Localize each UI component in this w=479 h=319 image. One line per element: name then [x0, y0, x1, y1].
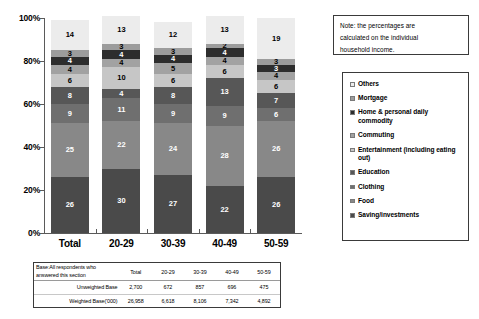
bar-segment[interactable]: 6 [257, 80, 295, 93]
bar-segment[interactable]: 5 [154, 63, 192, 74]
legend-item[interactable]: Mortgage [350, 94, 463, 103]
bar-stack: 262598644314 [51, 18, 89, 233]
bar-segment[interactable]: 22 [102, 121, 140, 168]
bar-segment-value: 6 [171, 77, 175, 85]
bar-segment[interactable]: 27 [154, 175, 192, 233]
legend-item-label: Others [358, 80, 379, 89]
bar-segment[interactable]: 19 [257, 18, 295, 59]
bar-segment[interactable]: 4 [102, 89, 140, 98]
y-axis-tick [40, 233, 45, 234]
legend-item[interactable]: Commuting [350, 131, 463, 140]
bar-segment[interactable]: 14 [51, 20, 89, 50]
legend-item[interactable]: Home & personal daily commodity [350, 108, 463, 125]
bar-segment-value: 26 [272, 145, 280, 153]
bar-segment[interactable]: 10 [102, 67, 140, 89]
bar-segment-value: 4 [119, 90, 123, 98]
bar-segment[interactable]: 4 [154, 55, 192, 64]
bar-segment-value: 3 [274, 65, 278, 71]
legend-swatch-icon [350, 199, 355, 204]
bar-segment[interactable]: 4 [102, 59, 140, 68]
bar-group[interactable]: 272498654312 [154, 18, 192, 233]
bar-segment[interactable]: 13 [206, 16, 244, 44]
base-table-col-50-59: 50-59 [248, 263, 280, 281]
legend-item-label: Food [358, 197, 374, 206]
cell-unweighted-total: 2,700 [119, 281, 151, 295]
chart-legend: OthersMortgageHome & personal daily comm… [342, 72, 469, 241]
bar-group[interactable]: 262667643319 [257, 18, 295, 233]
bar-segment[interactable]: 26 [257, 121, 295, 177]
cell-weighted-30-39: 8,106 [184, 294, 216, 307]
bar-segment[interactable]: 30 [102, 169, 140, 234]
bar-segment[interactable]: 26 [51, 177, 89, 233]
y-axis-tick-label: 20% [24, 185, 40, 195]
bar-segment[interactable]: 9 [206, 106, 244, 125]
base-table-grid: Base:All respondents who answered this s… [34, 263, 280, 307]
bar-segment-value: 6 [223, 68, 227, 76]
bar-group[interactable]: 262598644314 [51, 18, 89, 233]
bar-segment[interactable]: 6 [51, 74, 89, 87]
bar-group[interactable]: 2228913644213 [206, 18, 244, 233]
bar-segment[interactable]: 6 [257, 108, 295, 121]
bar-segment-value: 24 [169, 145, 177, 153]
bar-segment-value: 9 [171, 110, 175, 118]
bar-segment[interactable]: 24 [154, 123, 192, 175]
legend-item[interactable]: Food [350, 197, 463, 206]
bar-stack: 2228913644213 [206, 18, 244, 233]
bar-segment[interactable]: 13 [206, 78, 244, 106]
y-axis-tick-label: 40% [24, 142, 40, 152]
bar-segment-value: 14 [66, 31, 74, 39]
bar-segment[interactable]: 28 [206, 126, 244, 186]
bar-segment[interactable]: 3 [257, 65, 295, 71]
bar-segment[interactable]: 2 [206, 44, 244, 48]
bar-segment-value: 12 [169, 31, 177, 39]
row-label-unweighted-base: Unweighted Base [34, 281, 119, 295]
bar-segment[interactable]: 4 [206, 48, 244, 57]
bar-segment[interactable]: 11 [102, 98, 140, 122]
bar-segment-value: 27 [169, 200, 177, 208]
note-box: Note: the percentages are calculated on … [333, 15, 469, 55]
legend-swatch-icon [350, 133, 355, 138]
bar-segment[interactable]: 4 [102, 50, 140, 59]
bar-segment-value: 5 [171, 65, 175, 73]
bar-segment[interactable]: 6 [154, 74, 192, 87]
bar-segment[interactable]: 25 [51, 123, 89, 177]
bar-segment[interactable]: 3 [51, 50, 89, 56]
bar-segment-value: 6 [274, 83, 278, 91]
bar-segment[interactable]: 12 [154, 22, 192, 48]
bar-segment[interactable]: 8 [51, 87, 89, 104]
legend-item[interactable]: Entertainment (including eating out) [350, 146, 463, 163]
bar-segment[interactable]: 22 [206, 186, 244, 233]
legend-item[interactable]: Saving/investments [350, 211, 463, 220]
y-axis-tick [40, 61, 45, 62]
bar-segment[interactable]: 9 [51, 104, 89, 123]
bar-segment-value: 22 [220, 206, 228, 214]
bar-segment[interactable]: 4 [206, 57, 244, 66]
bar-segment-value: 3 [68, 50, 72, 56]
bar-group[interactable]: 30221141044313 [102, 18, 140, 233]
bar-stack: 30221141044313 [102, 18, 140, 233]
bar-segment[interactable]: 4 [51, 57, 89, 66]
cell-unweighted-20-29: 672 [152, 281, 184, 295]
bar-segment[interactable]: 26 [257, 177, 295, 233]
bar-segment[interactable]: 3 [154, 48, 192, 54]
bar-segment[interactable]: 7 [257, 93, 295, 108]
bar-segment-value: 4 [119, 59, 123, 67]
cell-unweighted-40-49: 696 [216, 281, 248, 295]
bar-segment[interactable]: 4 [51, 65, 89, 74]
legend-item[interactable]: Clothing [350, 183, 463, 192]
x-axis-tick [96, 229, 97, 234]
bar-segment[interactable]: 3 [257, 59, 295, 65]
y-axis-tick [40, 190, 45, 191]
bar-segment[interactable]: 13 [102, 16, 140, 44]
bar-segment[interactable]: 4 [257, 72, 295, 81]
bar-segment-value: 13 [220, 88, 228, 96]
bar-segment[interactable]: 6 [206, 65, 244, 78]
bar-segment[interactable]: 9 [154, 104, 192, 123]
y-axis-tick [40, 18, 45, 19]
bar-segment[interactable]: 8 [154, 87, 192, 104]
bar-segment[interactable]: 3 [102, 44, 140, 50]
bar-segment-value: 7 [274, 97, 278, 105]
legend-item[interactable]: Others [350, 80, 463, 89]
base-table-col-20-29: 20-29 [152, 263, 184, 281]
legend-item[interactable]: Education [350, 168, 463, 177]
